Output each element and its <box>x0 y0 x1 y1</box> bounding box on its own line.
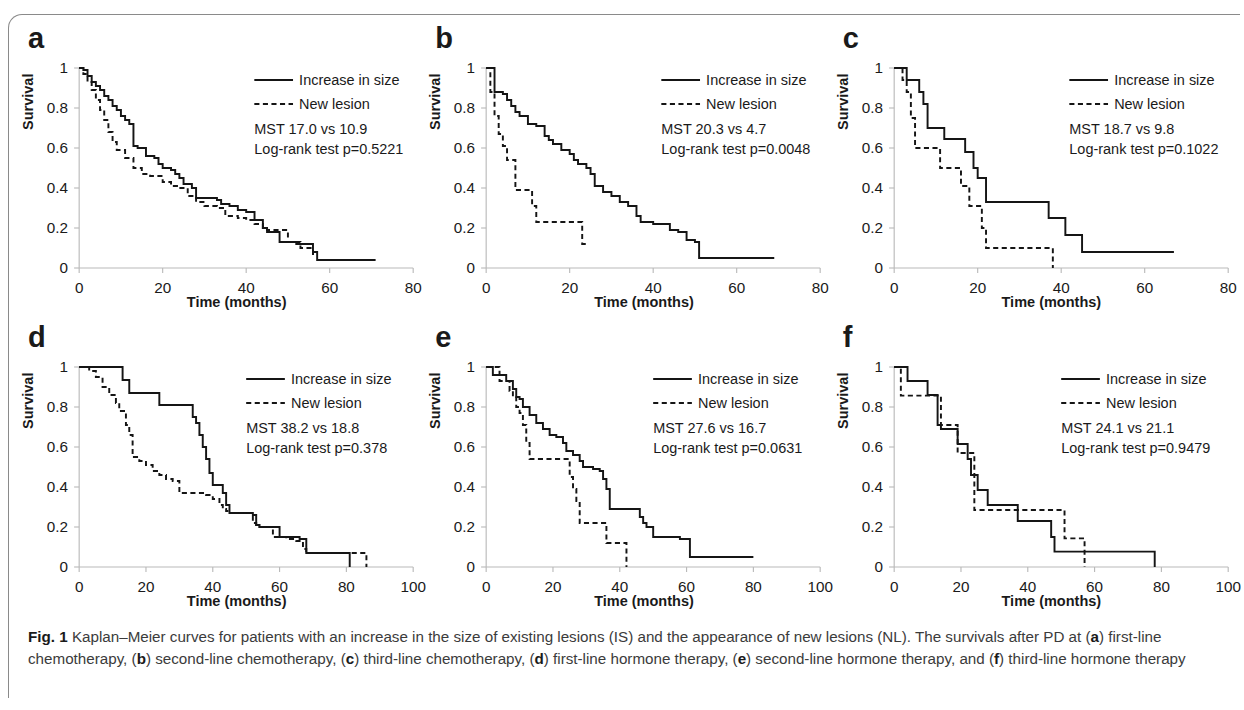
y-tick-label: 1 <box>874 359 882 376</box>
x-axis-label-d: Time (months) <box>14 593 421 609</box>
logrank-annotation: Log-rank test p=0.9479 <box>1061 440 1210 456</box>
plot-area-c: 02040608000.20.40.60.81Increase in sizeN… <box>829 54 1236 306</box>
logrank-annotation: Log-rank test p=0.0631 <box>654 440 803 456</box>
panel-letter-d: d <box>28 323 45 352</box>
logrank-annotation: Log-rank test p=0.5221 <box>254 141 403 157</box>
caption-bold-token: e <box>738 650 746 667</box>
y-tick-label: 0 <box>874 559 882 576</box>
km-plot-c: 02040608000.20.40.60.81Increase in sizeN… <box>829 54 1236 306</box>
mst-annotation: MST 38.2 vs 18.8 <box>246 420 359 436</box>
caption-bold-token: b <box>137 650 146 667</box>
y-tick-label: 0.6 <box>454 439 475 456</box>
y-tick-label: 0.4 <box>47 180 68 197</box>
y-tick-label: 0.2 <box>861 519 882 536</box>
legend-label: New lesion <box>698 395 769 411</box>
x-axis-label-a: Time (months) <box>14 294 421 310</box>
legend-label: New lesion <box>299 96 370 112</box>
caption-bold-token: a <box>1091 628 1099 645</box>
y-tick-label: 0 <box>59 260 67 277</box>
legend-label: Increase in size <box>299 72 399 88</box>
y-tick-label: 0.6 <box>47 140 68 157</box>
y-tick-label: 0.6 <box>454 140 475 157</box>
plot-area-e: 02040608010000.20.40.60.81Increase in si… <box>421 353 828 605</box>
caption-bold-token: d <box>535 650 544 667</box>
y-tick-label: 0.6 <box>861 140 882 157</box>
legend-label: Increase in size <box>698 371 798 387</box>
x-axis-label-c: Time (months) <box>829 294 1236 310</box>
figure-root: aSurvival02040608000.20.40.60.81Increase… <box>0 0 1244 710</box>
legend-label: Increase in size <box>706 72 806 88</box>
panel-e: eSurvival02040608010000.20.40.60.81Incre… <box>421 317 828 616</box>
y-tick-label: 0.4 <box>454 479 475 496</box>
km-plot-d: 02040608010000.20.40.60.81Increase in si… <box>14 353 421 605</box>
x-axis-label-b: Time (months) <box>421 294 828 310</box>
y-tick-label: 0.6 <box>47 439 68 456</box>
legend-label: Increase in size <box>1114 72 1214 88</box>
km-plot-e: 02040608010000.20.40.60.81Increase in si… <box>421 353 828 605</box>
panel-f: fSurvival02040608010000.20.40.60.81Incre… <box>829 317 1236 616</box>
km-plot-a: 02040608000.20.40.60.81Increase in sizeN… <box>14 54 421 306</box>
y-tick-label: 0.8 <box>861 399 882 416</box>
y-tick-label: 0.2 <box>454 519 475 536</box>
y-tick-label: 0.8 <box>47 399 68 416</box>
y-tick-label: 0.2 <box>47 519 68 536</box>
mst-annotation: MST 24.1 vs 21.1 <box>1061 420 1174 436</box>
panel-letter-a: a <box>28 24 44 53</box>
caption-text-run: ) second-line chemotherapy, ( <box>146 650 346 667</box>
caption-text-run: Kaplan–Meier curves for patients with an… <box>68 628 1091 645</box>
caption-text-run: ) third-line chemotherapy, ( <box>354 650 534 667</box>
y-tick-label: 0.2 <box>861 220 882 237</box>
y-tick-label: 0.8 <box>454 100 475 117</box>
mst-annotation: MST 20.3 vs 4.7 <box>662 121 767 137</box>
caption-bold-token: c <box>346 650 354 667</box>
legend-label: New lesion <box>1114 96 1185 112</box>
panel-letter-e: e <box>435 323 451 352</box>
y-tick-label: 0.2 <box>47 220 68 237</box>
caption-text-run: ) third-line hormone therapy <box>999 650 1186 667</box>
y-tick-label: 1 <box>59 60 67 77</box>
plot-area-b: 02040608000.20.40.60.81Increase in sizeN… <box>421 54 828 306</box>
plot-area-d: 02040608010000.20.40.60.81Increase in si… <box>14 353 421 605</box>
panel-letter-f: f <box>843 323 852 352</box>
mst-annotation: MST 18.7 vs 9.8 <box>1069 121 1174 137</box>
legend-label: New lesion <box>706 96 777 112</box>
legend-label: New lesion <box>291 395 362 411</box>
panel-b: bSurvival02040608000.20.40.60.81Increase… <box>421 18 828 317</box>
y-tick-label: 0.4 <box>47 479 68 496</box>
x-axis-label-f: Time (months) <box>829 593 1236 609</box>
caption-text-run: ) first-line hormone therapy, ( <box>544 650 738 667</box>
y-tick-label: 0 <box>59 559 67 576</box>
panel-letter-c: c <box>843 24 859 53</box>
km-plot-f: 02040608010000.20.40.60.81Increase in si… <box>829 353 1236 605</box>
legend-label: New lesion <box>1106 395 1177 411</box>
logrank-annotation: Log-rank test p=0.0048 <box>662 141 811 157</box>
y-tick-label: 0.8 <box>454 399 475 416</box>
mst-annotation: MST 27.6 vs 16.7 <box>654 420 767 436</box>
y-tick-label: 0.4 <box>861 180 882 197</box>
panel-grid: aSurvival02040608000.20.40.60.81Increase… <box>14 18 1236 616</box>
plot-area-f: 02040608010000.20.40.60.81Increase in si… <box>829 353 1236 605</box>
panel-d: dSurvival02040608010000.20.40.60.81Incre… <box>14 317 421 616</box>
y-tick-label: 0 <box>467 260 475 277</box>
km-curve-new-lesion <box>894 367 1084 567</box>
caption-text-run: ) second-line hormone therapy, and ( <box>746 650 994 667</box>
y-tick-label: 1 <box>874 60 882 77</box>
panel-c: cSurvival02040608000.20.40.60.81Increase… <box>829 18 1236 317</box>
y-tick-label: 0 <box>467 559 475 576</box>
y-tick-label: 0.8 <box>861 100 882 117</box>
legend-label: Increase in size <box>1106 371 1206 387</box>
y-tick-label: 1 <box>59 359 67 376</box>
y-tick-label: 1 <box>467 60 475 77</box>
legend-label: Increase in size <box>291 371 391 387</box>
caption-bold-token: Fig. 1 <box>28 628 68 645</box>
plot-area-a: 02040608000.20.40.60.81Increase in sizeN… <box>14 54 421 306</box>
y-tick-label: 0.4 <box>454 180 475 197</box>
panel-letter-b: b <box>435 24 452 53</box>
y-tick-label: 0.4 <box>861 479 882 496</box>
km-curve-new-lesion <box>487 68 587 244</box>
x-axis-label-e: Time (months) <box>421 593 828 609</box>
figure-caption: Fig. 1 Kaplan–Meier curves for patients … <box>28 626 1224 669</box>
logrank-annotation: Log-rank test p=0.1022 <box>1069 141 1218 157</box>
y-tick-label: 0 <box>874 260 882 277</box>
km-curve-new-lesion <box>487 367 627 567</box>
